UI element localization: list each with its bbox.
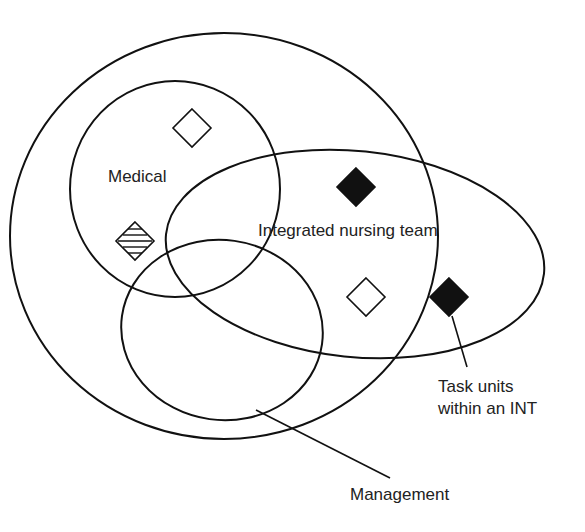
task-units-label-line2: within an INT <box>437 399 537 418</box>
open-diamond-medical <box>173 109 211 147</box>
filled-diamond-task-unit <box>430 278 468 316</box>
task-units-label-line1: Task units <box>438 377 514 396</box>
filled-diamond-int <box>337 168 375 206</box>
medical-set-ellipse <box>70 81 280 297</box>
venn-diagram: Medical Integrated nursing team Task uni… <box>0 0 585 532</box>
integrated-nursing-team-label: Integrated nursing team <box>258 221 438 240</box>
open-diamond-int <box>347 278 385 316</box>
task-units-leader-line <box>452 316 467 367</box>
medical-label: Medical <box>108 167 167 186</box>
management-label: Management <box>350 485 450 504</box>
management-set-ellipse <box>109 227 334 433</box>
management-leader-line <box>256 410 390 478</box>
hatched-diamond-medical <box>116 222 154 260</box>
